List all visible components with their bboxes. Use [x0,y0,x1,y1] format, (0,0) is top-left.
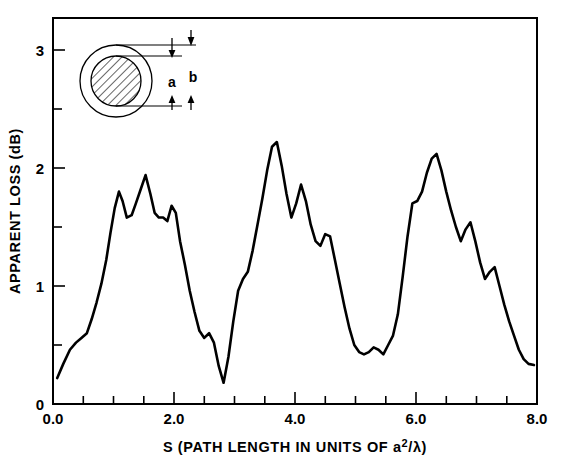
x-axis-title-main: S (PATH LENGTH IN UNITS OF a [163,439,402,455]
data-curve-apparent-loss [57,142,534,383]
y-tick-label-3: 3 [36,42,44,59]
x-tick-label-1: 2.0 [164,410,185,427]
apparent-loss-chart: 0.0 2.0 4.0 6.0 8.0 0 1 2 3 S (PATH LENG… [0,0,562,469]
x-tick-label-3: 6.0 [406,410,427,427]
x-tick-label-2: 4.0 [285,410,306,427]
y-axis-minor-ticks [53,109,62,345]
y-tick-label-2: 2 [36,160,44,177]
y-tick-label-1: 1 [36,278,44,295]
y-tick-label-0: 0 [36,396,44,413]
y-axis-title: APPARENT LOSS (dB) [7,128,23,294]
inset-label-b: b [189,69,198,85]
inset-label-a: a [168,74,176,90]
x-tick-label-0: 0.0 [43,410,64,427]
inset-fiber-cross-section: a b [80,30,197,117]
core-circle-hatched [91,56,141,106]
x-axis-major-ticks [53,392,537,404]
x-axis-title: S (PATH LENGTH IN UNITS OF a2/λ) [163,437,427,455]
x-tick-label-4: 8.0 [527,410,548,427]
figure-container: 0.0 2.0 4.0 6.0 8.0 0 1 2 3 S (PATH LENG… [0,0,562,469]
